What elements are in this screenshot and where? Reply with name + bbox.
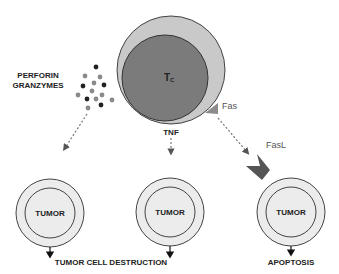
fasl-label: FasL — [266, 140, 286, 150]
svg-text:TUMOR: TUMOR — [155, 208, 185, 217]
fasl-ligand-icon — [246, 154, 270, 180]
fas-arrow — [218, 118, 247, 152]
svg-text:TUMOR: TUMOR — [276, 208, 306, 217]
fas-label: Fas — [222, 101, 238, 111]
immune-diagram: TC Fas PERFORIN GRANZYMES TNF FasL TUMOR — [0, 0, 339, 274]
tumor-cell-1: TUMOR — [16, 179, 84, 247]
granzymes-label: GRANZYMES — [12, 81, 64, 90]
destruction-label: TUMOR CELL DESTRUCTION — [55, 258, 168, 267]
tnf-label: TNF — [163, 128, 179, 137]
apoptosis-label: APOPTOSIS — [268, 258, 315, 267]
perforin-arrow — [65, 114, 87, 148]
granule-dots — [76, 65, 115, 111]
tumor-cell-2: TUMOR — [136, 178, 204, 246]
tc-cell: TC — [117, 16, 225, 124]
perforin-label: PERFORIN — [17, 71, 59, 80]
tumor-cell-3: TUMOR — [257, 178, 325, 246]
svg-text:TUMOR: TUMOR — [35, 209, 65, 218]
